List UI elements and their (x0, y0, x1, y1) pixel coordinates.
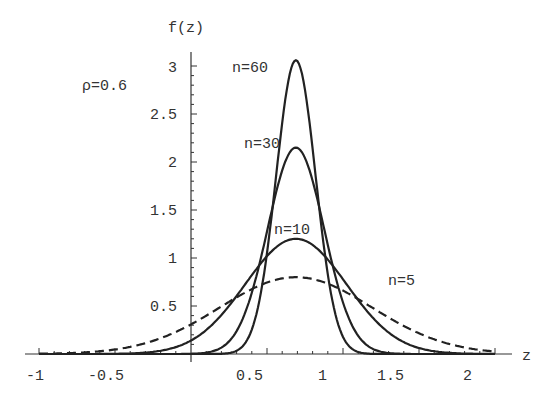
y-tick-label: 2.5 (150, 107, 177, 124)
chart: f(z) z -1 -0.5 0.5 1 1.5 2 0.5 1 1.5 2 2… (0, 0, 556, 406)
curve-label-n60: n=60 (232, 60, 268, 77)
y-tick-label: 2 (168, 155, 177, 172)
curve-label-n10: n=10 (274, 222, 310, 239)
y-tick-label: 1.5 (150, 203, 177, 220)
x-tick-label: 1 (318, 368, 327, 385)
x-tick-label: 2 (463, 368, 472, 385)
x-axis-title: z (522, 348, 531, 365)
curve-label-n5: n=5 (388, 273, 415, 290)
axis-ticks (39, 66, 495, 354)
x-tick-label: 1.5 (377, 368, 404, 385)
x-tick-label: 0.5 (236, 368, 263, 385)
curve-n5 (39, 277, 495, 354)
y-tick-label: 1 (168, 251, 177, 268)
y-tick-label: 3 (168, 60, 177, 77)
x-tick-label: -0.5 (88, 368, 124, 385)
x-tick-label: -1 (26, 368, 44, 385)
curve-label-n30: n=30 (244, 136, 280, 153)
y-tick-label: 0.5 (150, 299, 177, 316)
curve-n60 (39, 60, 495, 354)
rho-annotation: ρ=0.6 (82, 78, 127, 95)
y-axis-title: f(z) (168, 20, 204, 37)
